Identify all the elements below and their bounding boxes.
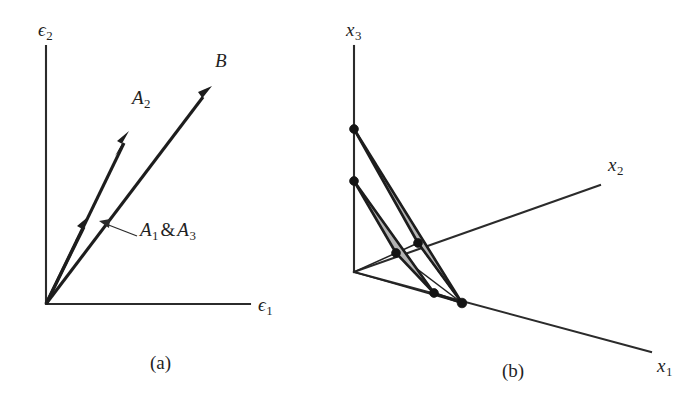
figure-root: ϵ2 ϵ1 A2 B A1&A3 (a) bbox=[0, 0, 692, 399]
node-dot-outer-bottom bbox=[457, 298, 467, 308]
caption-panel-a: (a) bbox=[150, 352, 171, 374]
panel-b-3d-diagram bbox=[346, 0, 692, 399]
node-dot-outer-mid bbox=[414, 239, 423, 248]
ampersand-symbol: & bbox=[159, 219, 178, 240]
vector-A2-subscript: 2 bbox=[144, 96, 151, 111]
vector-A3-subscript: 3 bbox=[189, 228, 196, 243]
caption-panel-b: (b) bbox=[502, 360, 524, 382]
epsilon2-symbol: ϵ bbox=[38, 19, 46, 40]
panel-a-vector-diagram bbox=[0, 0, 346, 399]
epsilon1-symbol: ϵ bbox=[258, 294, 266, 315]
node-dot-upper-x3 bbox=[350, 125, 359, 134]
x3-axis-label: x3 bbox=[346, 20, 361, 43]
vector-A1-subscript: 1 bbox=[152, 228, 159, 243]
x2-axis-label: x2 bbox=[608, 155, 623, 178]
vector-B bbox=[46, 86, 212, 304]
epsilon1-axis-label: ϵ1 bbox=[258, 295, 273, 318]
vector-A1A3-label: A1&A3 bbox=[140, 220, 196, 243]
vector-A2-arrowhead bbox=[115, 131, 129, 156]
node-dot-inner-bottom bbox=[430, 289, 439, 298]
base-edge-origin-to-node3 bbox=[354, 253, 396, 272]
vector-B-arrowhead bbox=[193, 86, 212, 110]
x3-subscript: 3 bbox=[354, 28, 361, 43]
vector-B-symbol: B bbox=[215, 50, 227, 71]
vector-A1A3-shaft bbox=[46, 227, 84, 304]
node-dot-inner-mid bbox=[392, 249, 401, 258]
vector-A2-symbol: A bbox=[132, 87, 144, 108]
vector-B-shaft bbox=[46, 97, 203, 304]
vector-A3-symbol: A bbox=[177, 219, 189, 240]
x1-axis-line bbox=[354, 272, 651, 352]
epsilon2-subscript: 2 bbox=[46, 28, 53, 43]
x2-axis-line bbox=[354, 185, 600, 272]
x2-subscript: 2 bbox=[616, 163, 623, 178]
vector-B-label: B bbox=[215, 51, 227, 70]
x1-axis-label: x1 bbox=[657, 356, 672, 379]
vector-A2-label: A2 bbox=[132, 88, 151, 111]
epsilon2-axis-label: ϵ2 bbox=[38, 20, 53, 43]
vector-A1-symbol: A bbox=[140, 219, 152, 240]
a1a3-leader-line bbox=[106, 224, 137, 236]
vector-A1-and-A3 bbox=[46, 216, 89, 304]
node-dot-lower-x3 bbox=[350, 177, 359, 186]
epsilon1-subscript: 1 bbox=[266, 303, 273, 318]
x1-subscript: 1 bbox=[665, 364, 672, 379]
